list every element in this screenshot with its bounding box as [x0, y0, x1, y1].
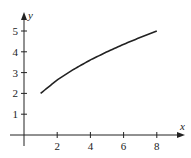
y-tick-label: 1 — [13, 108, 19, 120]
chart: x y 2468 12345 — [0, 0, 191, 158]
x-tick-label: 8 — [154, 140, 160, 152]
x-axis-label: x — [179, 120, 185, 132]
y-axis-arrow-icon — [21, 12, 27, 20]
y-axis-label: y — [27, 9, 33, 21]
y-tick-label: 5 — [13, 25, 19, 37]
y-tick-label: 2 — [13, 87, 19, 99]
x-axis-arrow-icon — [177, 132, 185, 138]
x-tick-label: 2 — [54, 140, 60, 152]
x-tick-label: 4 — [88, 140, 94, 152]
y-tick-label: 3 — [13, 67, 19, 79]
data-curve — [41, 31, 157, 93]
y-tick-label: 4 — [13, 46, 19, 58]
y-ticks: 12345 — [13, 25, 28, 120]
x-tick-label: 6 — [121, 140, 127, 152]
